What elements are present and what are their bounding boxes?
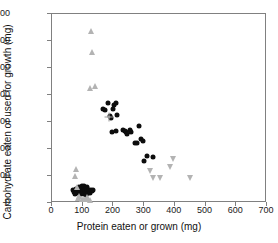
data-point-circle (90, 188, 95, 193)
data-point-circle (150, 155, 155, 160)
y-tick-mark (47, 175, 51, 176)
x-axis-title: Protein eaten or grown (mg) (0, 222, 278, 232)
plot-area (51, 13, 266, 202)
scatter-plot-figure: Carbohydrate eaten or used for growth (m… (0, 0, 278, 243)
y-tick-mark (47, 94, 51, 95)
data-point-circle (103, 107, 108, 112)
data-point-triangle-up (92, 83, 98, 89)
data-point-triangle-up (72, 173, 78, 179)
x-tick-label: 200 (105, 206, 120, 215)
data-point-cross-with-open-circle (105, 113, 114, 122)
x-tick-label: 600 (228, 206, 243, 215)
data-point-triangle-up (74, 184, 80, 190)
y-tick-mark (47, 67, 51, 68)
y-tick-label: 100 (0, 171, 10, 180)
mean-marker-dot (108, 116, 111, 119)
y-tick-label: 700 (0, 9, 10, 18)
y-tick-mark (47, 148, 51, 149)
x-tick-label: 500 (197, 206, 212, 215)
data-point-triangle-up (88, 28, 94, 34)
data-point-circle (129, 130, 134, 135)
x-tick-label: 100 (74, 206, 89, 215)
y-tick-mark (47, 202, 51, 203)
y-tick-label: 500 (0, 63, 10, 72)
x-axis-title-text: Protein eaten or grown (mg) (77, 221, 202, 232)
data-point-triangle-up (87, 197, 93, 203)
data-point-triangle-up (73, 166, 79, 172)
y-tick-label: 400 (0, 90, 10, 99)
y-tick-label: 200 (0, 144, 10, 153)
x-tick-label: 300 (136, 206, 151, 215)
x-tick-label: 400 (166, 206, 181, 215)
data-point-triangle-down (157, 175, 163, 181)
data-point-circle (114, 129, 119, 134)
y-tick-label: 300 (0, 117, 10, 126)
data-point-circle (142, 159, 147, 164)
data-point-circle (114, 112, 119, 117)
y-tick-mark (47, 13, 51, 14)
data-point-circle (140, 139, 145, 144)
y-tick-label: 600 (0, 36, 10, 45)
data-point-circle (136, 123, 141, 128)
y-tick-label: 0 (0, 198, 10, 207)
y-tick-mark (47, 121, 51, 122)
data-point-triangle-down (170, 156, 176, 162)
y-tick-mark (47, 40, 51, 41)
data-point-triangle-down (150, 175, 156, 181)
data-point-triangle-up (89, 49, 95, 55)
data-point-triangle-down (187, 175, 193, 181)
x-tick-label: 700 (258, 206, 273, 215)
data-point-circle (106, 101, 111, 106)
data-point-circle (113, 101, 118, 106)
x-tick-label: 0 (48, 206, 53, 215)
data-point-triangle-down (167, 164, 173, 170)
data-point-triangle-down (147, 168, 153, 174)
